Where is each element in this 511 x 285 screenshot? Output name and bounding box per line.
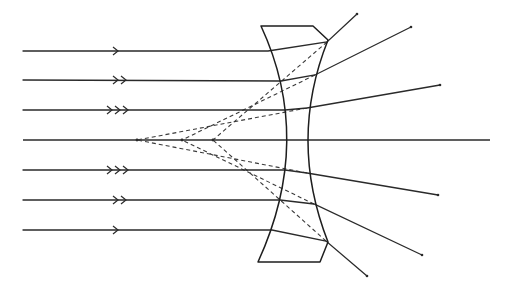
lens-outline: [258, 26, 328, 262]
biconcave-lens: [258, 26, 328, 262]
virtual-ray-extensions: [136, 42, 327, 241]
ray-1: [23, 27, 411, 81]
ray-5: [23, 200, 422, 255]
virtual-ray-2: [137, 108, 307, 140]
virtual-focus-point-0: [136, 139, 139, 142]
diverging-lens-diagram: [0, 0, 511, 285]
ray-end-dot-0: [356, 13, 359, 16]
ray-4: [23, 170, 438, 195]
ray-end-dot-5: [421, 254, 424, 257]
virtual-ray-3: [137, 140, 307, 173]
ray-end-dot-4: [437, 194, 440, 197]
virtual-focus-point-2: [212, 139, 215, 142]
virtual-ray-1: [182, 75, 315, 140]
ray-end-dot-1: [410, 26, 413, 29]
ray-end-dot-2: [439, 84, 442, 87]
virtual-ray-0: [213, 42, 327, 140]
ray-6: [23, 230, 367, 276]
ray-end-dot-6: [366, 275, 369, 278]
incident-and-refracted-rays: [23, 13, 441, 278]
ray-0: [23, 14, 357, 51]
virtual-focus-point-1: [181, 139, 184, 142]
ray-2: [23, 85, 440, 110]
virtual-ray-4: [182, 140, 314, 204]
